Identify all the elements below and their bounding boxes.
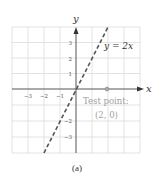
y-axis-arrow-icon: [74, 27, 79, 34]
tick-y-3: 3: [69, 40, 73, 46]
tick-x--3: −3: [24, 93, 33, 99]
tick-y-2: 2: [69, 56, 73, 62]
x-axis-label: x: [146, 83, 152, 94]
tick-x--2: −2: [40, 93, 48, 99]
test-point-title: Test point:: [83, 96, 129, 106]
tick-x--1: −1: [56, 93, 64, 99]
graph: x y −3 −2 −1 3 2 1 −2 −3 y = 2x Test poi…: [0, 0, 154, 160]
test-point-coords: (2, 0): [95, 110, 118, 120]
tick-y-1: 1: [69, 71, 73, 77]
tick-y--2: −2: [64, 118, 72, 124]
test-point-marker: [105, 87, 109, 91]
y-axis-label: y: [72, 13, 79, 24]
tick-y--3: −3: [64, 134, 73, 140]
figure-caption: (a): [0, 163, 154, 173]
line-equation-label: y = 2x: [103, 41, 133, 51]
x-axis-arrow-icon: [137, 87, 144, 92]
